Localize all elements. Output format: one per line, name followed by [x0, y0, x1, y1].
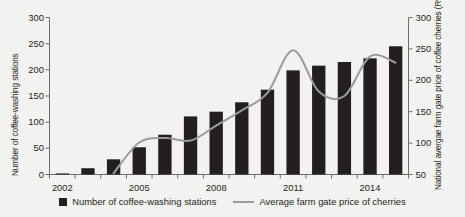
- chart-legend: Number of coffee-washing stations Averag…: [0, 196, 465, 207]
- right-axis-tick-label: 100: [416, 137, 440, 148]
- line-series-path: [114, 50, 396, 173]
- legend-item-price: Average farm gate price of cherries: [233, 196, 405, 207]
- legend-item-stations: Number of coffee-washing stations: [59, 196, 216, 207]
- left-axis-tick-label: 100: [8, 116, 44, 127]
- right-axis-tick-label: 50: [416, 169, 440, 180]
- bar: [338, 62, 351, 175]
- right-axis-tick-label: 150: [416, 106, 440, 117]
- x-axis-tick-label: 2008: [194, 182, 238, 193]
- left-axis-tick-label: 200: [8, 64, 44, 75]
- right-axis-tick-label: 250: [416, 43, 440, 54]
- left-axis-tick-label: 50: [8, 142, 44, 153]
- bar: [312, 66, 325, 175]
- bar: [261, 90, 274, 175]
- bar: [81, 168, 94, 174]
- x-axis-tick-label: 2005: [117, 182, 161, 193]
- chart-figure: Number of coffee-washing stations Nation…: [0, 0, 465, 217]
- legend-line-swatch-icon: [233, 201, 254, 203]
- left-axis-tick-label: 250: [8, 38, 44, 49]
- left-axis-tick-label: 0: [8, 169, 44, 180]
- right-axis-tick-label: 300: [416, 12, 440, 23]
- legend-label-price: Average farm gate price of cherries: [259, 196, 405, 207]
- left-axis-tick-label: 150: [8, 90, 44, 101]
- legend-label-stations: Number of coffee-washing stations: [72, 196, 216, 207]
- x-axis-tick-label: 2011: [271, 182, 315, 193]
- bar: [133, 147, 146, 174]
- bar: [389, 46, 402, 174]
- x-axis-tick-label: 2014: [348, 182, 392, 193]
- bar: [56, 173, 69, 174]
- bar: [184, 116, 197, 174]
- bar: [286, 70, 299, 174]
- bar: [210, 112, 223, 175]
- x-axis-tick-label: 2002: [40, 182, 84, 193]
- right-axis-tick-label: 200: [416, 74, 440, 85]
- bar: [363, 58, 376, 174]
- left-axis-tick-label: 300: [8, 12, 44, 23]
- bar: [158, 135, 171, 175]
- legend-bar-swatch-icon: [59, 198, 67, 206]
